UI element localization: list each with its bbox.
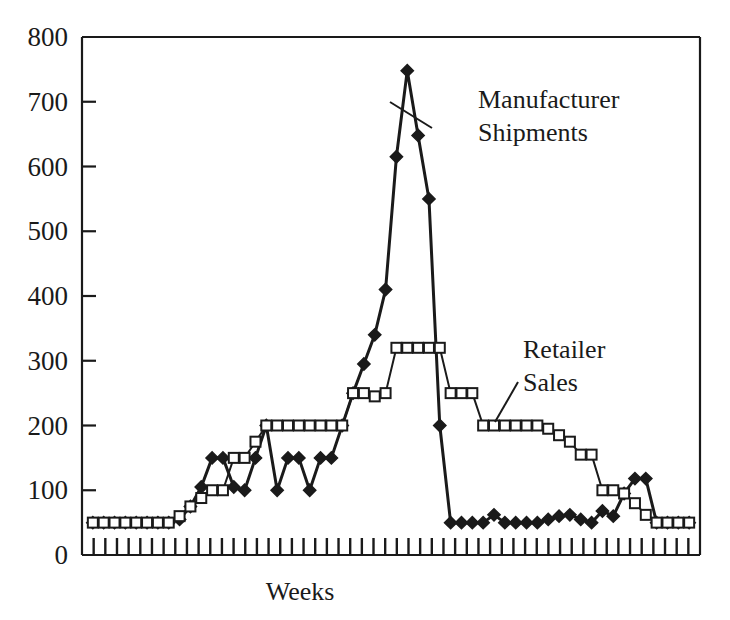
data-point-marker <box>597 485 607 495</box>
data-point-marker <box>272 421 282 431</box>
data-point-marker <box>619 488 629 498</box>
data-point-marker <box>500 421 510 431</box>
data-point-marker <box>240 453 250 463</box>
data-point-marker <box>316 421 326 431</box>
data-point-marker <box>543 424 553 434</box>
data-point-marker <box>435 343 445 353</box>
data-point-marker <box>608 485 618 495</box>
data-point-marker <box>511 421 521 431</box>
data-point-marker <box>684 518 694 528</box>
annotation-label-line2: Sales <box>523 368 578 397</box>
data-point-marker <box>467 388 477 398</box>
data-point-marker <box>99 518 109 528</box>
y-tick-label: 100 <box>28 475 69 505</box>
x-axis-title: Weeks <box>266 577 335 606</box>
y-tick-label: 200 <box>28 411 69 441</box>
y-tick-label: 300 <box>28 346 69 376</box>
data-point-marker <box>673 518 683 528</box>
data-point-marker <box>207 485 217 495</box>
data-point-marker <box>662 518 672 528</box>
data-point-marker <box>153 518 163 528</box>
data-point-marker <box>652 518 662 528</box>
data-point-marker <box>456 388 466 398</box>
data-point-marker <box>381 388 391 398</box>
data-point-marker <box>587 450 597 460</box>
annotation-label-line1: Manufacturer <box>478 85 620 114</box>
y-tick-label: 800 <box>28 22 69 52</box>
data-point-marker <box>391 343 401 353</box>
data-point-marker <box>446 388 456 398</box>
data-point-marker <box>348 388 358 398</box>
data-point-marker <box>532 421 542 431</box>
data-point-marker <box>478 421 488 431</box>
data-point-marker <box>305 421 315 431</box>
data-point-marker <box>261 421 271 431</box>
data-point-marker <box>294 421 304 431</box>
data-point-marker <box>196 493 206 503</box>
data-point-marker <box>120 518 130 528</box>
data-point-marker <box>489 421 499 431</box>
data-point-marker <box>283 421 293 431</box>
data-point-marker <box>110 518 120 528</box>
data-point-marker <box>131 518 141 528</box>
annotation-label-line1: Retailer <box>523 335 606 364</box>
y-tick-label: 500 <box>28 216 69 246</box>
data-point-marker <box>185 501 195 511</box>
data-point-marker <box>554 430 564 440</box>
data-point-marker <box>142 518 152 528</box>
data-point-marker <box>522 421 532 431</box>
data-point-marker <box>88 518 98 528</box>
data-point-marker <box>229 453 239 463</box>
data-point-marker <box>164 518 174 528</box>
data-point-marker <box>326 421 336 431</box>
y-tick-label: 600 <box>28 152 69 182</box>
y-axis-tick-labels: 0100200300400500600700800 <box>28 22 69 570</box>
data-point-marker <box>218 485 228 495</box>
data-point-marker <box>413 343 423 353</box>
data-point-marker <box>402 343 412 353</box>
data-point-marker <box>337 421 347 431</box>
line-chart: 0100200300400500600700800 ManufacturerSh… <box>0 0 730 620</box>
data-point-marker <box>250 437 260 447</box>
data-point-marker <box>630 498 640 508</box>
data-point-marker <box>565 437 575 447</box>
data-point-marker <box>641 510 651 520</box>
data-point-marker <box>175 511 185 521</box>
chart-page: 0100200300400500600700800 ManufacturerSh… <box>0 0 730 620</box>
y-tick-label: 0 <box>55 540 69 570</box>
data-point-marker <box>576 450 586 460</box>
y-tick-label: 400 <box>28 281 69 311</box>
data-point-marker <box>370 391 380 401</box>
data-point-marker <box>359 388 369 398</box>
annotation-label-line2: Shipments <box>478 118 588 147</box>
y-tick-label: 700 <box>28 87 69 117</box>
data-point-marker <box>424 343 434 353</box>
